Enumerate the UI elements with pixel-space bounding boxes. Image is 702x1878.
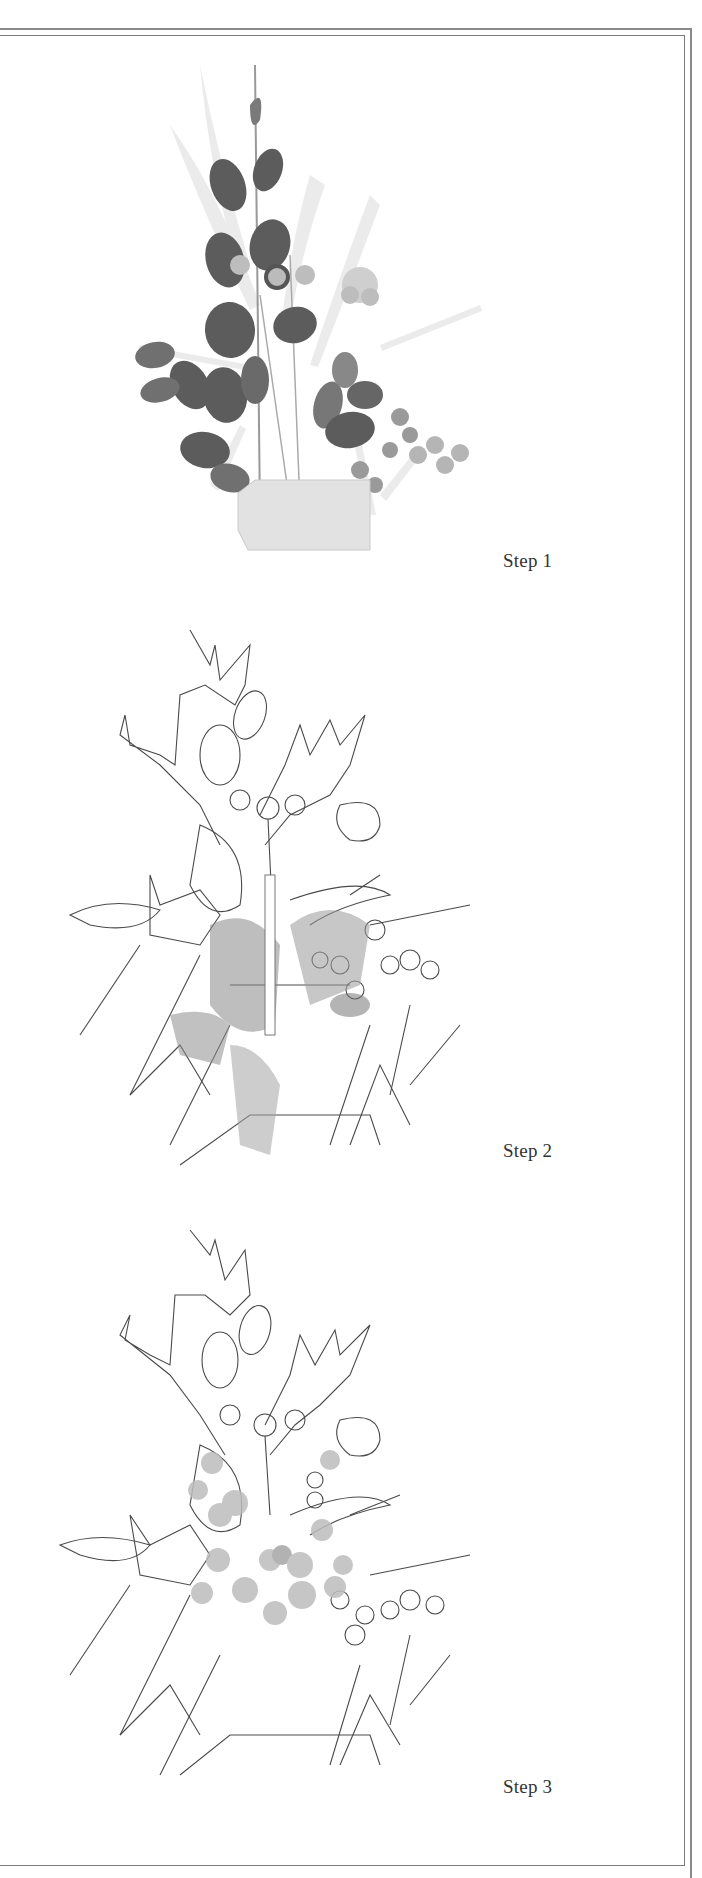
step-2-illustration — [50, 625, 510, 1200]
step-2-label: Step 2 — [503, 1140, 552, 1162]
line-drawing-with-berries-image — [50, 1215, 510, 1805]
step-3-label: Step 3 — [503, 1776, 552, 1798]
step-1-label: Step 1 — [503, 550, 552, 572]
step-3-illustration — [50, 1215, 510, 1805]
step-1-illustration — [50, 45, 510, 615]
line-drawing-with-washes-image — [50, 625, 510, 1200]
watercolor-arrangement-image — [50, 45, 510, 615]
